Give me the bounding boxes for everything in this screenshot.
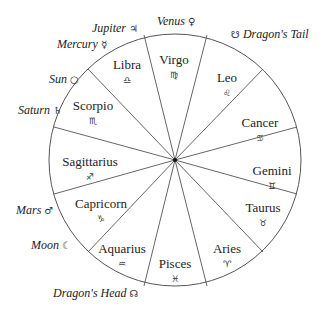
cancer-glyph-icon: ♋ bbox=[256, 133, 264, 143]
divider-line bbox=[175, 127, 297, 160]
planet-name: Mars bbox=[15, 203, 42, 217]
sign-taurus: Taurus♉ bbox=[245, 200, 280, 228]
sign-capricorn: Capricorn♑ bbox=[75, 196, 127, 224]
virgo-glyph-icon: ♍ bbox=[170, 70, 178, 80]
sign-name: Aquarius bbox=[98, 241, 146, 256]
mars-glyph-icon: ♂ bbox=[44, 205, 53, 216]
planet-name: Dragon's Tail bbox=[242, 27, 309, 41]
sign-name: Taurus bbox=[245, 200, 280, 215]
divider-line bbox=[88, 69, 175, 160]
planet-mars: Mars ♂ bbox=[15, 203, 53, 217]
planet-name: Venus bbox=[157, 14, 185, 28]
dragon-s-head-glyph-icon: ☊ bbox=[130, 288, 139, 299]
planet-name: Mercury bbox=[56, 37, 99, 51]
sign-scorpio: Scorpio♏ bbox=[73, 98, 113, 126]
sign-name: Libra bbox=[113, 57, 141, 72]
sign-sagittarius: Sagittarius♐ bbox=[62, 154, 118, 182]
moon-glyph-icon: ☾ bbox=[62, 240, 71, 251]
jupiter-glyph-icon: ♃ bbox=[129, 23, 138, 34]
sign-name: Sagittarius bbox=[62, 154, 118, 169]
sign-name: Virgo bbox=[159, 52, 188, 67]
sign-virgo: Virgo♍ bbox=[159, 52, 188, 80]
planet-dragon-s-tail: ☋ Dragon's Tail bbox=[231, 27, 309, 41]
gemini-glyph-icon: ♊ bbox=[268, 181, 276, 191]
sign-name: Leo bbox=[217, 70, 237, 85]
sign-aries: Aries♈ bbox=[213, 241, 241, 269]
sagittarius-glyph-icon: ♐ bbox=[86, 172, 94, 182]
sign-cancer: Cancer♋ bbox=[242, 115, 279, 143]
capricorn-glyph-icon: ♑ bbox=[97, 214, 105, 224]
sign-name: Aries bbox=[213, 241, 241, 256]
taurus-glyph-icon: ♉ bbox=[259, 218, 267, 228]
sign-leo: Leo♌ bbox=[217, 70, 237, 98]
center-point bbox=[173, 158, 177, 162]
planet-dragon-s-head: Dragon's Head ☊ bbox=[52, 286, 139, 300]
dragon-s-tail-glyph-icon: ☋ bbox=[231, 29, 240, 40]
aries-glyph-icon: ♈ bbox=[223, 259, 232, 269]
sign-name: Cancer bbox=[242, 115, 279, 130]
planet-name: Saturn bbox=[18, 103, 50, 117]
planet-name: Dragon's Head bbox=[52, 286, 128, 300]
planet-name: Sun bbox=[49, 72, 67, 86]
libra-glyph-icon: ♎ bbox=[123, 75, 131, 85]
planet-saturn: Saturn ♄ bbox=[18, 103, 62, 117]
planet-jupiter: Jupiter ♃ bbox=[92, 21, 138, 35]
sign-name: Scorpio bbox=[73, 98, 113, 113]
sign-name: Pisces bbox=[159, 256, 192, 271]
scorpio-glyph-icon: ♏ bbox=[89, 116, 97, 126]
zodiac-wheel-diagram: Virgo♍Leo♌Cancer♋Gemini♊Taurus♉Aries♈Pis… bbox=[0, 0, 322, 314]
planet-name: Moon bbox=[30, 238, 59, 252]
sign-gemini: Gemini♊ bbox=[253, 163, 292, 191]
planet-mercury: Mercury ☿ bbox=[56, 37, 107, 51]
planet-name: Jupiter bbox=[92, 21, 126, 35]
sign-name: Capricorn bbox=[75, 196, 127, 211]
sign-pisces: Pisces♓ bbox=[159, 256, 192, 284]
pisces-glyph-icon: ♓ bbox=[171, 274, 179, 284]
sign-libra: Libra♎ bbox=[113, 57, 141, 85]
sun-glyph-icon: ○ bbox=[70, 74, 79, 85]
saturn-glyph-icon: ♄ bbox=[53, 105, 62, 116]
venus-glyph-icon: ♀ bbox=[188, 16, 195, 27]
mercury-glyph-icon: ☿ bbox=[101, 39, 107, 50]
planet-sun: Sun ○ bbox=[49, 72, 79, 86]
sign-name: Gemini bbox=[253, 163, 292, 178]
planet-moon: Moon ☾ bbox=[30, 238, 71, 252]
leo-glyph-icon: ♌ bbox=[223, 88, 231, 98]
planet-venus: Venus ♀ bbox=[157, 14, 195, 28]
aquarius-glyph-icon: ♒ bbox=[118, 259, 126, 269]
